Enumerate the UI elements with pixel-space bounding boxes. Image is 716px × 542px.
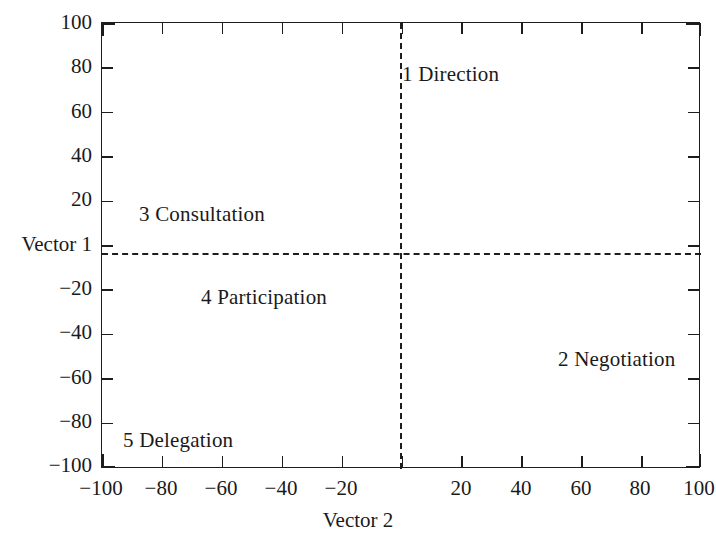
y-tick-right-60 [688, 112, 699, 114]
y-tick-label-40: 40 [0, 145, 92, 166]
x-axis-title: Vector 2 [0, 508, 716, 532]
y-tick-0 [102, 245, 113, 247]
x-tick-neg40 [282, 456, 284, 467]
y-tick-label-20: 20 [0, 189, 92, 210]
y-tick-right-neg60 [688, 378, 699, 380]
x-tick-60 [581, 456, 583, 467]
vertical-zero-reference-line [400, 23, 402, 469]
y-tick-right-neg20 [688, 289, 699, 291]
x-tick-top-neg80 [162, 23, 164, 34]
x-tick-top-40 [521, 23, 523, 34]
y-tick-label-neg80: −80 [0, 411, 92, 432]
x-tick-top-neg100 [102, 23, 104, 36]
y-tick-neg100 [102, 466, 115, 468]
y-tick-label-neg100: −100 [0, 455, 92, 476]
y-tick-neg60 [102, 378, 113, 380]
x-tick-neg20 [342, 456, 344, 467]
annotation-participation: 4 Participation [201, 287, 327, 308]
y-tick-label-100: 100 [0, 12, 92, 33]
annotation-negotiation: 2 Negotiation [558, 349, 676, 370]
y-tick-label-neg60: −60 [0, 367, 92, 388]
x-tick-40 [521, 456, 523, 467]
y-tick-label-80: 80 [0, 56, 92, 77]
y-tick-label-60: 60 [0, 101, 92, 122]
y-tick-60 [102, 112, 113, 114]
y-tick-neg20 [102, 289, 113, 291]
x-tick-label-100: 100 [639, 478, 716, 499]
x-tick-neg80 [162, 456, 164, 467]
x-tick-0 [402, 456, 404, 467]
y-tick-right-20 [688, 201, 699, 203]
y-tick-right-100 [686, 23, 699, 25]
horizontal-zero-reference-line [102, 253, 701, 255]
x-tick-neg100 [102, 454, 104, 467]
y-tick-40 [102, 156, 113, 158]
y-tick-label-neg20: −20 [0, 278, 92, 299]
y-tick-right-neg40 [688, 334, 699, 336]
x-tick-top-0 [402, 23, 404, 34]
x-tick-label-neg20: −20 [281, 478, 401, 499]
y-axis-title: Vector 1 [0, 234, 92, 255]
x-tick-20 [461, 456, 463, 467]
annotation-direction: 1 Direction [402, 64, 499, 85]
x-tick-top-neg20 [342, 23, 344, 34]
x-tick-top-neg40 [282, 23, 284, 34]
x-tick-80 [641, 456, 643, 467]
x-tick-top-20 [461, 23, 463, 34]
x-tick-100 [699, 454, 701, 467]
x-tick-top-neg60 [222, 23, 224, 34]
y-tick-20 [102, 201, 113, 203]
y-tick-right-0 [688, 245, 699, 247]
y-tick-right-neg80 [688, 423, 699, 425]
x-tick-neg60 [222, 456, 224, 467]
x-tick-top-80 [641, 23, 643, 34]
plot-frame: 1 Direction 2 Negotiation 3 Consultation… [101, 22, 700, 468]
y-tick-80 [102, 67, 113, 69]
y-tick-neg40 [102, 334, 113, 336]
y-tick-right-neg100 [686, 466, 699, 468]
annotation-delegation: 5 Delegation [123, 430, 233, 451]
x-tick-top-100 [699, 23, 701, 36]
x-tick-top-60 [581, 23, 583, 34]
y-tick-right-40 [688, 156, 699, 158]
annotation-consultation: 3 Consultation [139, 204, 265, 225]
y-tick-right-80 [688, 67, 699, 69]
quadrant-scatter-figure: 1 Direction 2 Negotiation 3 Consultation… [0, 0, 716, 542]
y-tick-label-neg40: −40 [0, 322, 92, 343]
y-tick-100 [102, 23, 115, 25]
y-tick-neg80 [102, 423, 113, 425]
